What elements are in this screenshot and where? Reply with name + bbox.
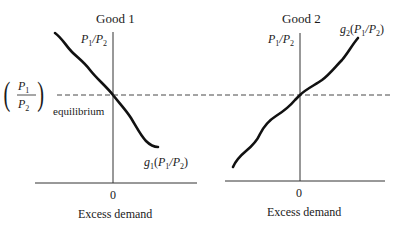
good2-yaxis-label: P1/P2 [267, 32, 294, 48]
equilibrium-subscript: equilibrium [53, 105, 105, 117]
good1-yaxis-label: P1/P2 [80, 32, 107, 48]
good2-xaxis-label: Excess demand [267, 205, 341, 219]
good1-title: Good 1 [96, 11, 135, 26]
good1-curve-label: g1(P1/P2) [144, 155, 188, 171]
right-paren: ) [37, 75, 44, 113]
equilibrium-label: ( P1 P2 ) equilibrium [4, 75, 105, 117]
good2-title: Good 2 [282, 11, 321, 26]
left-paren: ( [4, 75, 11, 113]
good1-excess-demand-curve [55, 33, 158, 147]
eq-denominator: P2 [17, 97, 29, 113]
good2-panel: Good 2 P1/P2 0 Excess demand g2(P1/P2) [225, 11, 385, 219]
good2-zero-tick: 0 [296, 186, 302, 200]
eq-numerator: P1 [17, 79, 29, 95]
good2-curve-label: g2(P1/P2) [340, 22, 384, 38]
good1-zero-tick: 0 [110, 188, 116, 202]
equilibrium-diagram: Good 1 P1/P2 0 Excess demand g1(P1/P2) (… [0, 0, 411, 229]
good1-xaxis-label: Excess demand [78, 207, 152, 221]
good2-excess-demand-curve [233, 38, 358, 167]
